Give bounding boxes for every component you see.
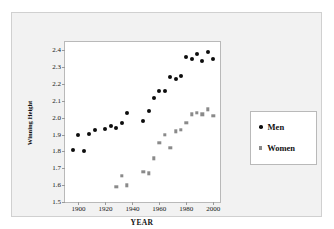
y-tick-label: 2.0 (52, 114, 61, 122)
data-point-women (147, 172, 150, 175)
data-point-women (190, 113, 193, 116)
x-tick-mark (159, 202, 160, 205)
data-point-men (147, 109, 151, 113)
data-point-men (152, 96, 156, 100)
data-point-men (190, 57, 194, 61)
data-point-women (168, 146, 171, 149)
data-point-men (114, 126, 118, 130)
chart-frame: Winning Height 1.51.61.71.81.92.02.12.22… (11, 12, 322, 217)
data-point-men (109, 124, 113, 128)
men-marker-icon (259, 125, 263, 129)
y-tick-mark (62, 168, 65, 169)
data-point-women (185, 121, 188, 124)
legend-item-women: Women (259, 143, 295, 153)
y-tick-label: 2.2 (52, 80, 61, 88)
y-tick-label: 1.7 (52, 164, 61, 172)
y-tick-mark (62, 84, 65, 85)
x-tick-label: 1940 (125, 205, 139, 213)
x-tick-label: 1900 (71, 205, 85, 213)
y-tick-mark (62, 101, 65, 102)
x-tick-label: 1980 (179, 205, 193, 213)
data-point-women (206, 108, 209, 111)
x-tick-label: 1920 (98, 205, 112, 213)
data-point-men (82, 149, 86, 153)
data-point-men (157, 89, 161, 93)
data-point-women (163, 133, 166, 136)
data-point-women (212, 114, 215, 117)
y-tick-mark (62, 67, 65, 68)
data-point-men (141, 119, 145, 123)
data-point-men (206, 50, 210, 54)
data-point-women (195, 111, 198, 114)
data-point-men (168, 75, 172, 79)
y-tick-label: 2.1 (52, 97, 61, 105)
data-point-women (174, 130, 177, 133)
data-point-men (71, 148, 75, 152)
data-point-women (201, 113, 204, 116)
data-point-men (76, 133, 80, 137)
y-tick-label: 1.8 (52, 147, 61, 155)
data-point-women (179, 128, 182, 131)
plot-area: 1.51.61.71.81.92.02.12.22.32.41900192019… (64, 41, 221, 203)
data-point-women (115, 185, 118, 188)
y-tick-mark (62, 118, 65, 119)
y-tick-label: 1.5 (52, 198, 61, 206)
plot-inner: 1.51.61.71.81.92.02.12.22.32.41900192019… (65, 42, 220, 202)
data-point-men (200, 59, 204, 63)
data-point-men (184, 55, 188, 59)
x-tick-mark (132, 202, 133, 205)
data-point-women (125, 183, 128, 186)
x-tick-mark (105, 202, 106, 205)
data-point-women (152, 157, 155, 160)
data-point-men (103, 127, 107, 131)
y-tick-mark (62, 202, 65, 203)
y-tick-label: 2.3 (52, 63, 61, 71)
data-point-women (141, 170, 144, 173)
y-tick-mark (62, 50, 65, 51)
chart-legend: Men Women (250, 111, 317, 165)
legend-label-women: Women (267, 143, 295, 153)
x-axis-title: YEAR (131, 218, 154, 227)
data-point-men (163, 89, 167, 93)
data-point-men (179, 74, 183, 78)
x-tick-mark (78, 202, 79, 205)
x-tick-label: 2000 (206, 205, 220, 213)
data-point-men (125, 111, 129, 115)
data-point-women (120, 174, 123, 177)
y-tick-label: 2.4 (52, 46, 61, 54)
x-tick-mark (186, 202, 187, 205)
data-point-women (158, 141, 161, 144)
data-point-men (195, 52, 199, 56)
data-point-men (93, 128, 97, 132)
y-tick-label: 1.6 (52, 181, 61, 189)
data-point-men (174, 77, 178, 81)
women-marker-icon (259, 146, 262, 149)
x-tick-label: 1960 (152, 205, 166, 213)
data-point-men (120, 121, 124, 125)
legend-label-men: Men (268, 122, 285, 132)
y-tick-mark (62, 135, 65, 136)
y-axis-title: Winning Height (26, 101, 33, 146)
data-point-men (87, 132, 91, 136)
data-point-men (211, 57, 215, 61)
y-tick-mark (62, 185, 65, 186)
y-tick-label: 1.9 (52, 131, 61, 139)
legend-item-men: Men (259, 122, 284, 132)
y-tick-mark (62, 151, 65, 152)
x-tick-mark (213, 202, 214, 205)
chart-root: Winning Height 1.51.61.71.81.92.02.12.22… (0, 0, 334, 229)
